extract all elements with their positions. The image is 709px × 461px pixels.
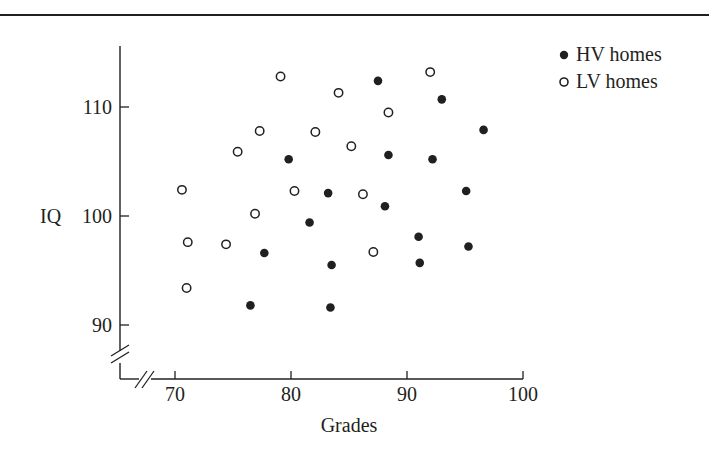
data-point-filled	[464, 242, 473, 251]
data-point-open	[384, 108, 392, 116]
x-tick-label: 90	[397, 383, 417, 405]
x-tick-label: 70	[165, 383, 185, 405]
scatter-chart: 70809010090100110 Grades IQ HV homes LV …	[0, 0, 709, 461]
open-circle-icon	[560, 78, 568, 86]
data-point-open	[182, 284, 190, 292]
data-point-filled	[428, 155, 437, 164]
x-tick-label: 100	[508, 383, 538, 405]
data-point-filled	[462, 187, 471, 196]
data-point-filled	[246, 301, 255, 310]
data-point-open	[178, 186, 186, 194]
data-point-filled	[415, 259, 424, 268]
data-point-open	[255, 127, 263, 135]
data-point-filled	[327, 261, 336, 270]
data-point-filled	[438, 95, 447, 104]
data-point-filled	[381, 202, 390, 211]
data-point-filled	[414, 232, 423, 241]
data-point-open	[426, 68, 434, 76]
legend: HV homes LV homes	[560, 43, 662, 92]
data-point-open	[184, 238, 192, 246]
data-point-filled	[479, 126, 488, 135]
data-point-open	[369, 248, 377, 256]
data-point-open	[359, 190, 367, 198]
y-axis-label: IQ	[40, 205, 62, 227]
x-axis-label: Grades	[321, 414, 378, 436]
axes	[111, 46, 523, 388]
data-point-open	[290, 187, 298, 195]
filled-circle-icon	[560, 51, 568, 59]
series-lv-homes	[178, 68, 435, 292]
x-tick-label: 80	[281, 383, 301, 405]
data-point-open	[347, 142, 355, 150]
data-point-filled	[260, 249, 269, 258]
data-point-filled	[374, 77, 383, 86]
data-point-open	[251, 210, 259, 218]
data-point-open	[276, 72, 284, 80]
data-point-open	[311, 128, 319, 136]
y-tick-label: 110	[83, 96, 112, 118]
data-point-filled	[284, 155, 293, 164]
data-points	[178, 68, 488, 312]
data-point-open	[233, 147, 241, 155]
legend-label-lv: LV homes	[576, 70, 658, 92]
data-point-filled	[305, 218, 314, 227]
y-tick-label: 90	[92, 314, 112, 336]
data-point-filled	[384, 151, 393, 160]
data-point-open	[222, 240, 230, 248]
legend-label-hv: HV homes	[576, 43, 662, 65]
data-point-open	[334, 89, 342, 97]
y-tick-label: 100	[82, 205, 112, 227]
data-point-filled	[324, 189, 333, 198]
data-point-filled	[326, 303, 335, 312]
